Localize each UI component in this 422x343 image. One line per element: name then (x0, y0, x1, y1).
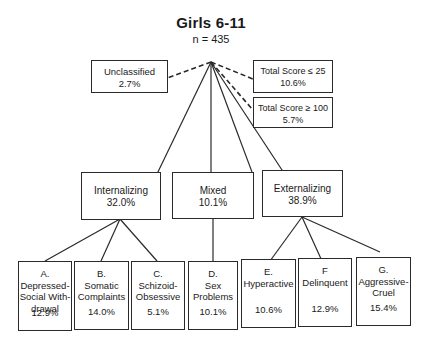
unclassified-label: Unclassified (92, 66, 167, 78)
leaf-pct: 15.4% (357, 302, 410, 314)
group-pct: 10.1% (173, 197, 253, 209)
leaf-c: C. Schizoid- Obsessive 5.1% (131, 261, 185, 330)
leaf-pct: 12.9% (19, 307, 71, 319)
group-pct: 38.9% (263, 195, 342, 207)
low-score-pct: 10.6% (254, 78, 332, 90)
leaf-pct: 14.0% (75, 306, 128, 318)
leaf-letter: C. (132, 268, 184, 280)
leaf-pct: 5.1% (132, 306, 184, 318)
leaf-letter: E. (242, 266, 295, 278)
leaf-d: D. Sex Problems 10.1% (188, 261, 238, 330)
leaf-line: Problems (189, 291, 237, 303)
leaf-g: G. Aggressive- Cruel 15.4% (356, 257, 411, 326)
low-score-label: Total Score ≤ 25 (254, 66, 332, 78)
leaf-line: Depressed- (19, 280, 71, 292)
leaf-letter: F (299, 265, 351, 277)
group-label: Externalizing (263, 183, 342, 195)
unclassified-box: Unclassified 2.7% (91, 60, 168, 93)
unclassified-pct: 2.7% (92, 78, 167, 90)
high-score-pct: 5.7% (254, 115, 332, 127)
group-label: Mixed (173, 185, 253, 197)
high-score-box: Total Score ≥ 100 5.7% (253, 97, 333, 128)
low-score-box: Total Score ≤ 25 10.6% (253, 60, 333, 93)
leaf-line: Somatic (75, 280, 128, 292)
leaf-e: E. Hyperactive 10.6% (241, 259, 296, 328)
leaf-line: Sex (189, 280, 237, 292)
leaf-letter: G. (357, 264, 410, 276)
leaf-b: B. Somatic Complaints 14.0% (74, 261, 129, 330)
leaf-line: Hyperactive (242, 278, 295, 290)
leaf-pct: 10.1% (189, 306, 237, 318)
group-internalizing: Internalizing 32.0% (81, 172, 161, 220)
high-score-label: Total Score ≥ 100 (254, 103, 332, 115)
leaf-line: Delinquent (299, 277, 351, 289)
leaf-a: A. Depressed- Social With- drawal 12.9% (18, 261, 72, 331)
leaf-line: Obsessive (132, 291, 184, 303)
leaf-line: Social With- (19, 291, 71, 303)
diagram-title: Girls 6-11 (0, 14, 422, 31)
leaf-line: Schizoid- (132, 280, 184, 292)
leaf-f: F Delinquent 12.9% (298, 258, 352, 327)
group-externalizing: Externalizing 38.9% (262, 170, 343, 217)
group-pct: 32.0% (82, 197, 160, 209)
leaf-letter: D. (189, 268, 237, 280)
leaf-line: Cruel (357, 287, 410, 299)
leaf-line: Aggressive- (357, 276, 410, 288)
group-label: Internalizing (82, 185, 160, 197)
leaf-pct: 12.9% (299, 303, 351, 315)
leaf-line: Complaints (75, 291, 128, 303)
leaf-pct: 10.6% (242, 304, 295, 316)
sample-size: n = 435 (0, 33, 422, 45)
group-mixed: Mixed 10.1% (172, 172, 254, 219)
leaf-letter: A. (19, 268, 71, 280)
leaf-letter: B. (75, 268, 128, 280)
